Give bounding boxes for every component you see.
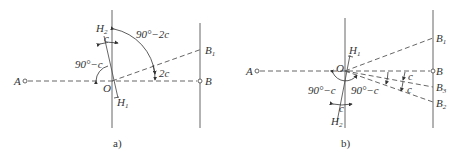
panel-a: A B B1 O H2 H1 c 90°−c 90°−2c 2c a) (13, 10, 215, 150)
point-A-a (23, 79, 27, 83)
arc-c-a (100, 42, 118, 44)
label-2c-a: 2c (159, 67, 170, 79)
label-H1-a: H1 (116, 96, 128, 110)
point-B-b (431, 69, 435, 73)
label-O-b: O (336, 62, 344, 74)
label-90-minus-c-a: 90°−c (75, 58, 103, 70)
label-B-a: B (205, 75, 212, 87)
label-c-lower-right-b: c (407, 83, 412, 95)
label-90-minus-2c-a: 90°−2c (136, 28, 169, 40)
caption-a: a) (113, 137, 122, 150)
caption-b: b) (341, 137, 351, 150)
line-OB1-a (112, 49, 202, 81)
arc-c-lower-right-b (401, 82, 403, 91)
label-c-a: c (104, 32, 109, 44)
label-A-b: A (245, 65, 253, 77)
label-c-bottom-b: c (339, 102, 344, 114)
arc-c-mid-b (386, 72, 388, 84)
label-B1-b: B1 (436, 32, 446, 46)
label-B-b: B (436, 65, 443, 77)
label-90-minus-c-left-b: 90°−c (308, 84, 336, 96)
label-B2-b: B2 (436, 97, 447, 111)
point-A-b (255, 69, 259, 73)
panel-b: A B B1 B3 B2 O H1 H2 90°−c 90°−c c c c b… (245, 10, 447, 150)
label-A-a: A (13, 75, 21, 87)
label-H1-b: H1 (348, 44, 360, 58)
h1-tick-b (348, 56, 353, 57)
label-B1-a: B1 (205, 44, 215, 58)
point-B-a (198, 79, 202, 83)
label-O-a: O (103, 82, 111, 94)
label-90-minus-c-right-b: 90°−c (351, 84, 379, 96)
diagram-canvas: A B B1 O H2 H1 c 90°−c 90°−2c 2c a) A B … (0, 0, 454, 159)
label-B3-b: B3 (436, 81, 447, 95)
arc-2c-a (153, 65, 155, 80)
label-H2-b: H2 (330, 115, 343, 129)
label-c-upper-right-b: c (408, 70, 413, 82)
arc-c-upper-right-b (403, 72, 405, 80)
